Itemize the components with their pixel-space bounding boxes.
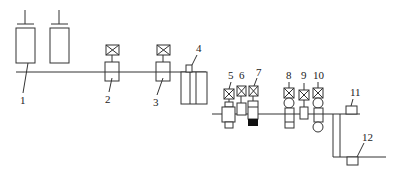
- unit-4: [181, 65, 207, 104]
- label-8: 8: [286, 69, 292, 81]
- label-1: 1: [20, 94, 26, 106]
- label-4: 4: [196, 42, 202, 54]
- tank-2: [50, 10, 69, 63]
- label-12: 12: [362, 131, 373, 143]
- roller-valve-10: [313, 88, 323, 132]
- label-2: 2: [105, 93, 111, 105]
- label-5: 5: [228, 69, 234, 81]
- drop-pipe: [333, 114, 386, 157]
- label-6: 6: [239, 69, 245, 81]
- process-diagram: 1 2 3 4 5: [0, 0, 410, 174]
- valve-6: [237, 86, 246, 115]
- label-10: 10: [313, 69, 325, 81]
- valve-3: [156, 45, 170, 81]
- label-3: 3: [153, 96, 159, 108]
- leader-11: [351, 99, 353, 106]
- leader-12: [357, 143, 364, 157]
- valve-2: [105, 45, 119, 81]
- valve-7: [248, 86, 258, 126]
- sensor-block-11: [346, 106, 357, 114]
- sensor-block-12: [347, 157, 358, 165]
- leader-5: [229, 82, 231, 89]
- valve-5: [222, 89, 235, 128]
- label-7: 7: [256, 66, 262, 78]
- label-11: 11: [350, 86, 361, 98]
- label-9: 9: [301, 69, 307, 81]
- leader-4: [192, 55, 197, 65]
- leader-1: [23, 63, 28, 93]
- tank-1: [16, 10, 35, 63]
- roller-valve-8: [284, 88, 294, 128]
- leader-7: [254, 78, 257, 86]
- valve-9: [299, 90, 309, 119]
